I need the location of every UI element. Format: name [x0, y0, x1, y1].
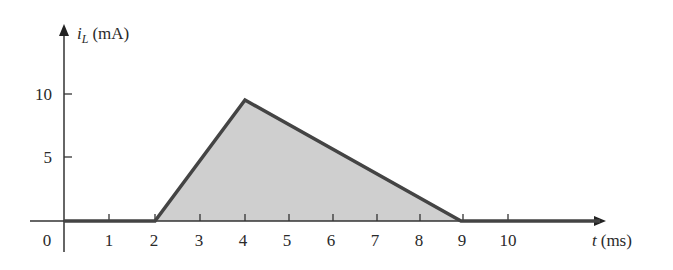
y-ticks [64, 94, 72, 157]
svg-text:8: 8 [415, 231, 424, 250]
svg-text:1: 1 [105, 231, 114, 250]
svg-text:7: 7 [371, 231, 380, 250]
svg-text:5: 5 [283, 231, 292, 250]
svg-text:9: 9 [458, 231, 467, 250]
y-axis-arrow-icon [59, 24, 69, 36]
svg-text:3: 3 [195, 231, 204, 250]
svg-text:6: 6 [327, 231, 336, 250]
y-tick-label-10: 10 [35, 85, 52, 104]
svg-text:4: 4 [239, 231, 248, 250]
svg-text:0: 0 [43, 231, 52, 250]
svg-text:2: 2 [150, 231, 159, 250]
chart: 10 5 0 1 2 3 4 5 6 7 8 9 10 iL(mA) t(ms) [0, 0, 673, 270]
x-axis-label: t(ms) [592, 231, 632, 250]
y-tick-label-5: 5 [44, 148, 53, 167]
y-axis-label: iL(mA) [77, 24, 129, 46]
x-tick-labels: 0 1 2 3 4 5 6 7 8 9 10 [43, 231, 517, 250]
svg-text:10: 10 [500, 231, 517, 250]
